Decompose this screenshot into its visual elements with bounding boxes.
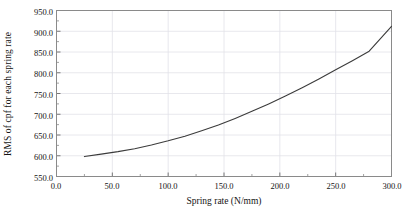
data-series-line [84, 26, 391, 156]
x-axis-title: Spring rate (N/mm) [56, 196, 392, 206]
plot-area [0, 0, 415, 213]
gridlines [57, 11, 392, 177]
chart-figure: RMS of cpf for each spring rate 950.0 90… [0, 0, 415, 213]
